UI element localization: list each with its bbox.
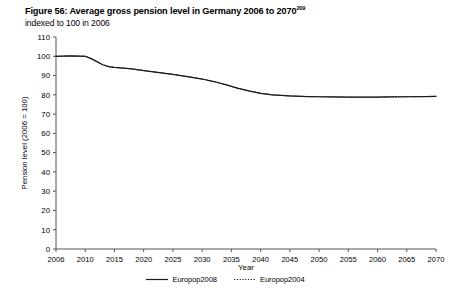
legend-swatch-dotted-icon	[234, 276, 256, 283]
legend-item-europop2008[interactable]: Europop2008	[146, 275, 217, 284]
y-tick-label: 10	[41, 226, 50, 235]
x-tick-label: 2045	[281, 255, 298, 264]
data-series-group	[56, 56, 436, 97]
x-tick-label: 2050	[311, 255, 328, 264]
y-axis-title-group: Pension level (2006 = 100)	[20, 96, 29, 189]
line-chart-plot: Pension level (2006 = 100) 0102030405060…	[0, 0, 451, 275]
series-line-europop2008	[56, 56, 436, 97]
x-tick-label: 2025	[164, 255, 181, 264]
y-tick-label: 90	[41, 71, 50, 80]
legend-swatch-solid-icon	[146, 276, 168, 283]
y-axis-ticks: 0102030405060708090100110	[37, 33, 56, 254]
legend-label-europop2008: Europop2008	[172, 275, 217, 284]
x-tick-label: 2015	[106, 255, 123, 264]
x-tick-label: 2070	[428, 255, 445, 264]
legend-label-europop2004: Europop2004	[260, 275, 305, 284]
y-axis-title: Pension level (2006 = 100)	[20, 96, 29, 189]
x-tick-label: 2010	[77, 255, 94, 264]
x-tick-label: 2055	[340, 255, 357, 264]
x-tick-label: 2006	[48, 255, 65, 264]
y-tick-label: 30	[41, 187, 50, 196]
x-axis-title: Year	[238, 263, 254, 272]
x-tick-label: 2065	[398, 255, 415, 264]
figure-container: Figure 56: Average gross pension level i…	[0, 0, 451, 296]
y-tick-label: 70	[41, 110, 50, 119]
y-tick-label: 60	[41, 129, 50, 138]
y-tick-label: 40	[41, 168, 50, 177]
x-tick-label: 2060	[369, 255, 386, 264]
y-tick-label: 0	[46, 245, 51, 254]
y-tick-label: 20	[41, 206, 50, 215]
x-axis-ticks: 2006201020152020202520302035204020452050…	[48, 249, 445, 264]
x-tick-label: 2040	[252, 255, 269, 264]
y-tick-label: 80	[41, 91, 50, 100]
y-tick-label: 110	[38, 33, 51, 42]
legend-item-europop2004[interactable]: Europop2004	[234, 275, 305, 284]
x-tick-label: 2030	[194, 255, 211, 264]
chart-legend: Europop2008 Europop2004	[0, 275, 451, 284]
series-line-europop2004	[56, 56, 436, 97]
x-tick-label: 2020	[135, 255, 152, 264]
y-tick-label: 50	[41, 148, 50, 157]
y-tick-label: 100	[37, 52, 51, 61]
